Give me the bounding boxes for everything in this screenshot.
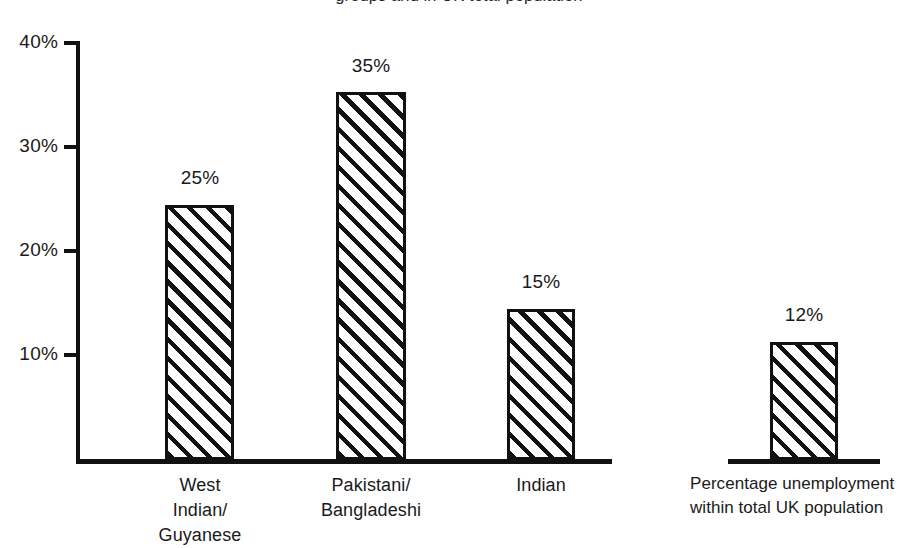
y-tick-label-30: 30%: [0, 136, 58, 155]
category-label-west-indian-guyanese: West Indian/ Guyanese: [130, 473, 270, 548]
bar-value-indian: 15%: [481, 272, 601, 291]
bar-value-uk-total-population: 12%: [744, 305, 864, 324]
y-tick-label-40: 40%: [0, 32, 58, 51]
bar-indian: [507, 309, 575, 460]
reference-bar-caption: Percentage unemployment within total UK …: [690, 472, 918, 520]
bar-value-pakistani-bangladeshi: 35%: [311, 56, 431, 75]
category-label-pakistani-bangladeshi: Pakistani/ Bangladeshi: [296, 473, 446, 523]
category-label-indian: Indian: [471, 473, 611, 498]
bar-value-west-indian-guyanese: 25%: [140, 168, 260, 187]
bar-west-indian-guyanese: [165, 205, 234, 460]
y-tick-mark-20: [64, 249, 80, 253]
y-tick-mark-10: [64, 353, 80, 357]
y-tick-mark-30: [64, 145, 80, 149]
y-tick-mark-40: [64, 41, 80, 45]
bar-pakistani-bangladeshi: [336, 92, 406, 460]
chart-title: groups and in UK total population: [0, 0, 918, 4]
y-tick-label-20: 20%: [0, 240, 58, 259]
y-tick-label-10: 10%: [0, 344, 58, 363]
bar-uk-total-population: [770, 342, 838, 460]
